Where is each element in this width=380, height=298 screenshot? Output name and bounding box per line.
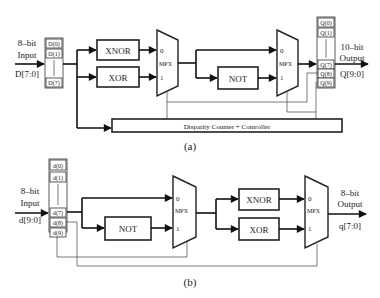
svg-text:Q(8): Q(8) — [320, 71, 331, 78]
svg-text:MPX: MPX — [307, 208, 321, 214]
svg-text:d(1): d(1) — [53, 175, 63, 182]
output-register-a: Q(0) Q(1) Q(7) Q(8) Q(9) — [317, 17, 335, 88]
svg-text:NOT: NOT — [119, 224, 138, 234]
svg-text:NOT: NOT — [229, 74, 248, 84]
svg-text:8–bit: 8–bit — [341, 188, 360, 198]
svg-text:Output: Output — [337, 199, 363, 209]
diagram-b: 8–bit Input d[9:0] d(0) d(1) d(7) d(8) d… — [15, 159, 366, 289]
svg-text:1: 1 — [280, 74, 284, 82]
svg-text:1: 1 — [176, 225, 180, 233]
svg-text:D(1): D(1) — [48, 51, 59, 58]
input-label-a: 8–bit Input D[7:0] — [15, 38, 39, 79]
svg-text:D[7:0]: D[7:0] — [15, 69, 39, 79]
svg-text:1: 1 — [308, 225, 312, 233]
caption-b: (b) — [184, 276, 197, 289]
output-label-b: 8–bit Output q[7:0] — [337, 188, 363, 231]
svg-text:Input: Input — [18, 50, 37, 60]
svg-text:d(7): d(7) — [53, 210, 63, 217]
svg-text:XNOR: XNOR — [105, 46, 131, 56]
svg-text:Input: Input — [21, 198, 40, 208]
input-label-b: 8–bit Input d[9:0] — [19, 186, 41, 225]
svg-text:d(0): d(0) — [53, 163, 63, 170]
output-label-a: 10–bit Output Q[9:0] — [339, 42, 365, 79]
svg-text:d(9): d(9) — [53, 230, 63, 237]
svg-text:q[7:0]: q[7:0] — [339, 221, 361, 231]
svg-text:XNOR: XNOR — [246, 195, 272, 205]
svg-text:10–bit: 10–bit — [340, 42, 364, 52]
svg-text:Q(9): Q(9) — [320, 80, 331, 87]
svg-text:8–bit: 8–bit — [21, 186, 40, 196]
svg-text:XOR: XOR — [249, 225, 268, 235]
svg-text:Q(7): Q(7) — [320, 62, 331, 69]
svg-text:MPX: MPX — [175, 208, 189, 214]
svg-text:Q(1): Q(1) — [320, 30, 331, 37]
svg-text:0: 0 — [160, 47, 164, 55]
encoder-decoder-diagram: 8–bit Input D[7:0] D(0) D(1) D(7) XNOR X… — [0, 0, 380, 298]
svg-text:d[9:0]: d[9:0] — [19, 215, 41, 225]
svg-text:Q(0): Q(0) — [320, 20, 331, 27]
svg-text:0: 0 — [308, 195, 312, 203]
svg-text:MPX: MPX — [279, 61, 293, 67]
input-register-b: d(0) d(1) d(7) d(8) d(9) — [49, 159, 67, 237]
svg-text:1: 1 — [160, 74, 164, 82]
svg-text:8–bit: 8–bit — [18, 38, 37, 48]
svg-text:D(7): D(7) — [48, 80, 59, 87]
svg-text:Output: Output — [339, 53, 365, 63]
svg-text:Disparity Counter + Controller: Disparity Counter + Controller — [184, 123, 271, 131]
svg-text:0: 0 — [280, 47, 284, 55]
svg-text:d(8): d(8) — [53, 220, 63, 227]
svg-text:D(0): D(0) — [48, 41, 59, 48]
caption-a: (a) — [184, 140, 197, 153]
svg-text:0: 0 — [176, 195, 180, 203]
svg-text:MPX: MPX — [159, 61, 173, 67]
input-register-a: D(0) D(1) D(7) — [45, 38, 63, 88]
diagram-a: 8–bit Input D[7:0] D(0) D(1) D(7) XNOR X… — [15, 17, 368, 153]
svg-text:XOR: XOR — [108, 73, 127, 83]
svg-text:Q[9:0]: Q[9:0] — [340, 69, 364, 79]
